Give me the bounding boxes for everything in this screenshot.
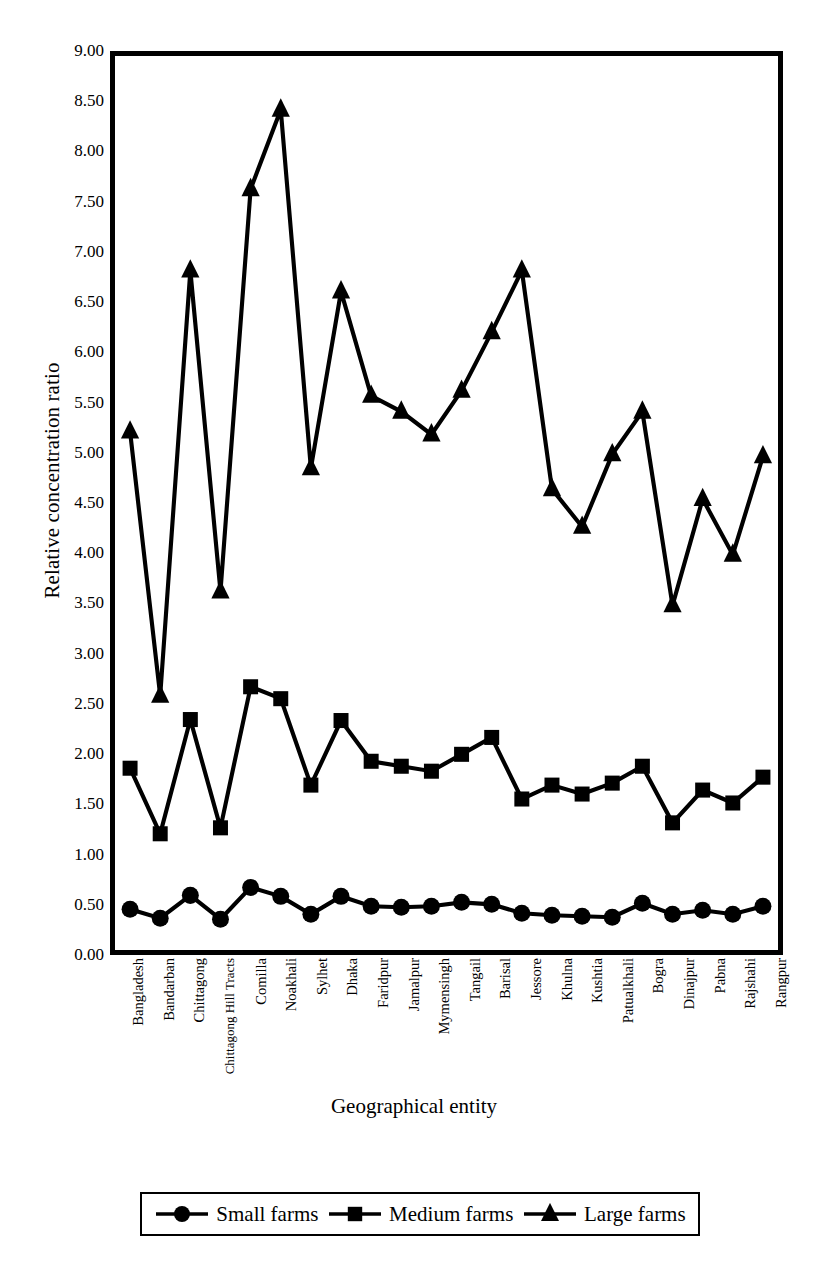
data-point xyxy=(634,895,651,912)
x-tick-label: Dhaka xyxy=(345,958,360,996)
data-point xyxy=(181,259,199,277)
y-tick-label: 3.50 xyxy=(50,594,104,611)
data-point xyxy=(334,713,349,728)
legend-item-medium-farms[interactable]: Medium farms xyxy=(327,1202,513,1227)
data-point xyxy=(483,896,500,913)
data-point xyxy=(332,280,350,298)
data-point xyxy=(694,902,711,919)
data-point xyxy=(362,384,380,402)
data-point xyxy=(213,820,228,835)
data-point xyxy=(635,759,650,774)
x-tick-label: Patualkhali xyxy=(621,958,636,1023)
y-tick-label: 0.50 xyxy=(50,896,104,913)
legend-item-large-farms[interactable]: Large farms xyxy=(522,1202,686,1227)
data-point xyxy=(454,747,469,762)
data-point xyxy=(664,906,681,923)
y-tick-label: 6.00 xyxy=(50,343,104,360)
y-tick-label: 5.00 xyxy=(50,444,104,461)
y-tick-label: 3.00 xyxy=(50,645,104,662)
data-point xyxy=(694,488,712,506)
x-tick-label: Faridpur xyxy=(376,958,391,1008)
data-point xyxy=(754,898,771,915)
x-tick-label: Jamalpur xyxy=(407,958,422,1011)
plot-area xyxy=(110,51,783,955)
data-point xyxy=(725,795,740,810)
data-point xyxy=(211,580,229,598)
data-point xyxy=(394,759,409,774)
data-point xyxy=(605,776,620,791)
legend-label: Large farms xyxy=(582,1202,686,1227)
data-point xyxy=(754,445,772,463)
data-point xyxy=(182,887,199,904)
series-canvas xyxy=(115,56,778,950)
y-tick-label: 8.50 xyxy=(50,92,104,109)
data-point xyxy=(333,888,350,905)
x-tick-label: Bogra xyxy=(651,958,666,993)
data-point xyxy=(574,908,591,925)
x-tick-label: Tangail xyxy=(468,958,483,1001)
series-line xyxy=(130,687,763,834)
data-point xyxy=(575,787,590,802)
data-point xyxy=(513,905,530,922)
data-point xyxy=(302,906,319,923)
data-point xyxy=(153,826,168,841)
y-tick-label: 4.50 xyxy=(50,494,104,511)
y-tick-label: 9.00 xyxy=(50,42,104,59)
data-point xyxy=(424,764,439,779)
y-tick-label: 0.00 xyxy=(50,946,104,963)
data-point xyxy=(272,888,289,905)
x-tick-label: Comilla xyxy=(254,958,269,1005)
x-tick-label: Pabna xyxy=(713,958,728,993)
data-point xyxy=(724,906,741,923)
data-point xyxy=(453,894,470,911)
data-point xyxy=(393,899,410,916)
x-tick-label: Mymensingh xyxy=(437,958,452,1035)
x-tick-label: Bandarban xyxy=(162,958,177,1021)
y-axis-tick-labels: 9.008.508.007.507.006.506.005.505.004.50… xyxy=(42,0,104,1278)
square-marker-icon xyxy=(327,1203,383,1225)
y-tick-label: 7.00 xyxy=(50,243,104,260)
y-tick-label: 8.00 xyxy=(50,142,104,159)
data-point xyxy=(242,178,260,196)
data-point xyxy=(122,901,139,918)
legend-label: Medium farms xyxy=(387,1202,513,1227)
data-point xyxy=(273,691,288,706)
data-point xyxy=(423,898,440,915)
y-tick-label: 6.50 xyxy=(50,293,104,310)
data-point xyxy=(665,815,680,830)
y-tick-label: 1.00 xyxy=(50,846,104,863)
data-point xyxy=(183,712,198,727)
legend-item-small-farms[interactable]: Small farms xyxy=(154,1202,318,1227)
data-point xyxy=(242,879,259,896)
data-point xyxy=(484,730,499,745)
data-point xyxy=(663,594,681,612)
data-point xyxy=(604,909,621,926)
figure: Relative concentration ratio 9.008.508.0… xyxy=(0,0,828,1278)
data-point xyxy=(363,898,380,915)
series-medium-farms xyxy=(123,679,771,841)
data-point xyxy=(243,679,258,694)
x-tick-label: Rajshahi xyxy=(743,958,758,1009)
circle-marker-icon xyxy=(154,1203,210,1225)
data-point xyxy=(695,783,710,798)
y-tick-label: 7.50 xyxy=(50,193,104,210)
data-point xyxy=(303,778,318,793)
y-tick-label: 1.50 xyxy=(50,795,104,812)
x-tick-label: Dinajpur xyxy=(682,958,697,1010)
legend-label: Small farms xyxy=(214,1202,318,1227)
data-point xyxy=(755,770,770,785)
y-tick-label: 2.50 xyxy=(50,695,104,712)
data-point xyxy=(272,98,290,116)
data-point xyxy=(543,478,561,496)
x-axis-title: Geographical entity xyxy=(0,1094,828,1119)
x-tick-label: Chittagong xyxy=(192,958,207,1022)
data-point xyxy=(364,754,379,769)
x-tick-label: Bangladesh xyxy=(131,958,146,1026)
y-tick-label: 4.00 xyxy=(50,544,104,561)
series-large-farms xyxy=(121,98,772,702)
legend: Small farmsMedium farmsLarge farms xyxy=(140,1192,700,1236)
x-axis-tick-labels: BangladeshBandarbanChittagongChittagong … xyxy=(110,958,783,1088)
data-point xyxy=(544,778,559,793)
y-tick-label: 2.00 xyxy=(50,745,104,762)
data-point xyxy=(633,400,651,418)
